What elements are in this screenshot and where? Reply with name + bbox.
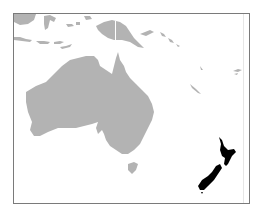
oceania-locator-map (0, 0, 259, 213)
